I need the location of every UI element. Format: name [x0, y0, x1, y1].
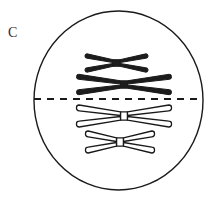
upper-left-arm	[77, 105, 121, 116]
chromosome-3	[77, 105, 172, 127]
lower-right-arm	[124, 143, 155, 154]
cell-diagram	[0, 0, 212, 202]
lower-left-arm	[77, 85, 121, 95]
upper-left-arm	[86, 131, 117, 142]
chromosome-1	[85, 54, 148, 72]
lower-right-arm	[128, 85, 172, 95]
chromosome-2	[77, 74, 172, 94]
upper-right-arm	[128, 105, 172, 116]
lower-right-arm	[128, 117, 172, 128]
lower-left-arm	[86, 143, 117, 154]
lower-right-arm	[120, 63, 148, 72]
meiosis-diagram-panel: C	[0, 0, 212, 202]
lower-left-arm	[77, 117, 121, 128]
upper-right-arm	[120, 54, 148, 63]
chromosome-group	[77, 54, 172, 153]
centromere	[117, 138, 124, 146]
chromosome-4	[86, 131, 155, 153]
upper-left-arm	[85, 54, 113, 63]
upper-left-arm	[77, 74, 121, 84]
upper-right-arm	[124, 131, 155, 142]
upper-right-arm	[128, 74, 172, 84]
lower-left-arm	[85, 63, 113, 72]
centromere	[121, 112, 128, 120]
centromere	[121, 81, 128, 88]
cell-membrane-outline	[34, 11, 203, 190]
centromere	[113, 60, 120, 67]
